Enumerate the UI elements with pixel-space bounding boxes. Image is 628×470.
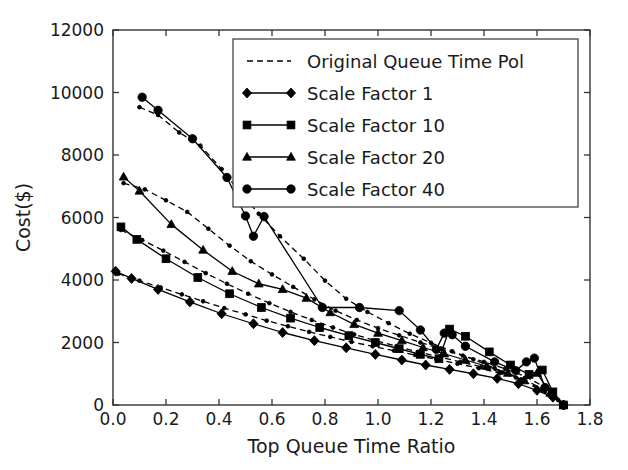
y-tick-label: 8000 <box>61 145 104 165</box>
legend-label: Scale Factor 40 <box>307 179 445 200</box>
series-scale-factor-1 <box>111 266 568 410</box>
series-line <box>116 271 564 405</box>
y-tick-label: 12000 <box>50 20 104 40</box>
legend-label: Scale Factor 10 <box>307 115 445 136</box>
chart-legend[interactable]: Original Queue Time PolScale Factor 1Sca… <box>233 39 578 207</box>
x-tick-label: 1.4 <box>470 409 497 429</box>
cost-vs-queue-time-ratio-chart: 0.00.20.40.60.81.01.21.41.61.80200040006… <box>0 0 628 470</box>
legend-label: Original Queue Time Pol <box>307 51 524 72</box>
chart-figure: 0.00.20.40.60.81.01.21.41.61.80200040006… <box>0 0 628 470</box>
series-line <box>118 274 563 405</box>
y-tick-label: 4000 <box>61 270 104 290</box>
x-tick-label: 1.8 <box>576 409 603 429</box>
y-tick-label: 6000 <box>61 208 104 228</box>
y-axis-title: Cost($) <box>12 183 34 252</box>
x-tick-label: 0.2 <box>152 409 179 429</box>
x-tick-label: 0.6 <box>258 409 285 429</box>
x-tick-label: 1.6 <box>523 409 550 429</box>
y-tick-label: 10000 <box>50 83 104 103</box>
x-tick-label: 1.0 <box>364 409 391 429</box>
y-tick-label: 2000 <box>61 333 104 353</box>
x-axis-title: Top Queue Time Ratio <box>247 435 456 457</box>
x-tick-label: 1.2 <box>417 409 444 429</box>
x-tick-label: 0.8 <box>311 409 338 429</box>
x-tick-label: 0.4 <box>205 409 232 429</box>
series-original-queue-time-pol-d <box>116 272 565 407</box>
legend-label: Scale Factor 20 <box>307 147 445 168</box>
y-tick-label: 0 <box>93 395 104 415</box>
legend-label: Scale Factor 1 <box>307 83 433 104</box>
series-markers <box>111 266 568 410</box>
